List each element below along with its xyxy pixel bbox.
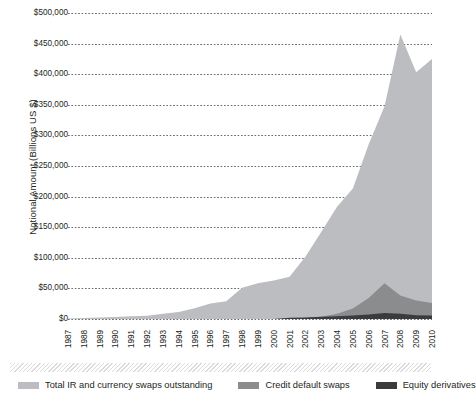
y-axis-tick-label: $150,000 — [22, 223, 68, 231]
legend-swatch — [376, 382, 397, 389]
series-area — [68, 35, 432, 319]
legend-swatch — [238, 382, 259, 389]
series-areas — [68, 13, 432, 319]
chart-legend: Total IR and currency swaps outstandingC… — [18, 378, 428, 392]
legend-label: Equity derivatives — [403, 380, 476, 390]
legend-swatch — [18, 382, 39, 389]
plot-area — [68, 13, 432, 319]
y-axis-tick-label: $250,000 — [22, 162, 68, 170]
legend-item[interactable]: Total IR and currency swaps outstanding — [18, 380, 212, 390]
y-axis-tick-label: $450,000 — [22, 40, 68, 48]
y-axis-tick-label: $200,000 — [22, 193, 68, 201]
legend-label: Credit default swaps — [265, 380, 349, 390]
x-axis-tick-label: 2010 — [415, 322, 449, 356]
y-axis-tick-label: $50,000 — [22, 284, 68, 292]
y-axis-tick-label: $300,000 — [22, 131, 68, 139]
legend-label: Total IR and currency swaps outstanding — [45, 380, 212, 390]
y-axis-tick-label: $500,000 — [22, 9, 68, 17]
y-axis-tick-label: $350,000 — [22, 101, 68, 109]
y-axis-tick-label: $400,000 — [22, 70, 68, 78]
legend-item[interactable]: Equity derivatives — [376, 380, 476, 390]
gridline — [68, 319, 432, 320]
legend-item[interactable]: Credit default swaps — [238, 380, 349, 390]
y-axis-tick-label: $100,000 — [22, 254, 68, 262]
hatched-divider — [10, 363, 431, 372]
y-axis-tick-labels: $0$50,000$100,000$150,000$200,000$250,00… — [22, 6, 68, 326]
x-axis-tick-labels: 1987198819891990199119921993199419951996… — [68, 322, 432, 360]
